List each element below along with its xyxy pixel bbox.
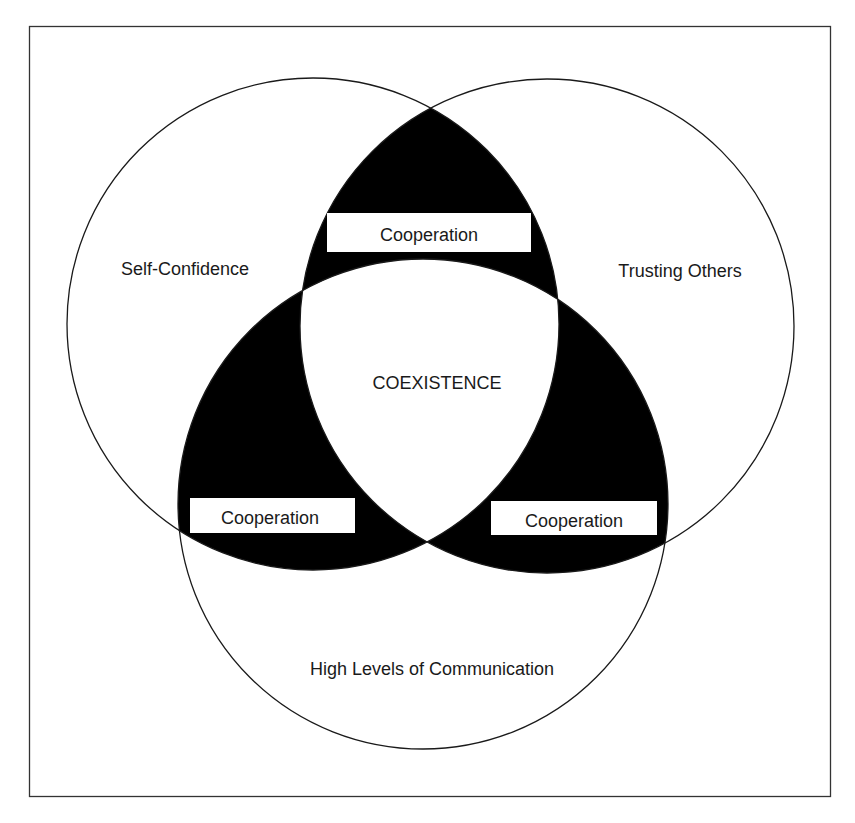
label-communication: High Levels of Communication — [310, 659, 554, 679]
label-coexistence: COEXISTENCE — [372, 373, 501, 393]
cooperation-label-right: Cooperation — [525, 511, 623, 531]
label-self-confidence: Self-Confidence — [121, 259, 249, 279]
cooperation-label-top: Cooperation — [380, 225, 478, 245]
label-trusting-others: Trusting Others — [618, 261, 741, 281]
venn-diagram: Cooperation Cooperation Cooperation Self… — [0, 0, 855, 823]
cooperation-label-left: Cooperation — [221, 508, 319, 528]
